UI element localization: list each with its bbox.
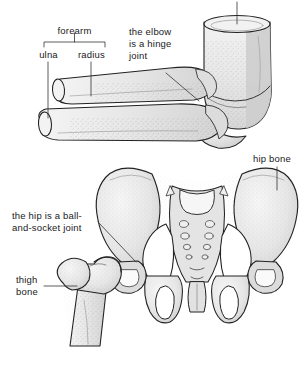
femur-bone: [55, 255, 130, 350]
label-thigh-bone-line2: bone: [16, 286, 38, 298]
label-hip-note-line2: and-socket joint: [12, 222, 82, 234]
label-elbow-note-line1: the elbow: [129, 26, 171, 38]
ulna-bone: [38, 104, 228, 144]
label-hip-bone: hip bone: [253, 153, 291, 165]
label-elbow-note-line3: joint: [129, 50, 147, 62]
radius-bone: [52, 67, 220, 108]
anatomy-figure: humerus forearm ulna radius the elbow is…: [0, 0, 303, 366]
label-hip-note-line1: the hip is a ball-: [12, 210, 82, 222]
label-elbow-note-line2: is a hinge: [129, 38, 172, 50]
label-ulna: ulna: [30, 49, 67, 61]
label-forearm: forearm: [44, 25, 105, 37]
pelvis-bone: [90, 168, 303, 323]
bracket-forearm: [44, 42, 105, 47]
label-thigh-bone-line1: thigh: [16, 274, 38, 286]
label-radius: radius: [69, 49, 114, 61]
label-humerus: humerus: [206, 0, 268, 3]
